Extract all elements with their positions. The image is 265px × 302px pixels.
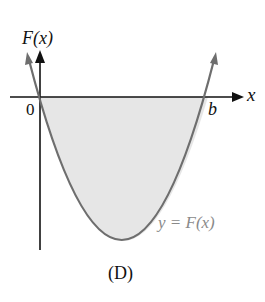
y-axis-label: F(x) (22, 28, 53, 49)
x-axis-label: x (247, 84, 255, 106)
y-axis-arrow-icon (35, 50, 45, 63)
root-b-label: b (208, 99, 217, 120)
curve-right-arrow-icon (210, 52, 218, 65)
figure-caption: (D) (108, 263, 133, 284)
curve-label: y = F(x) (158, 213, 215, 233)
curve-left-arrow-icon (25, 52, 33, 65)
origin-label: 0 (26, 100, 35, 120)
x-axis-arrow-icon (232, 92, 244, 102)
